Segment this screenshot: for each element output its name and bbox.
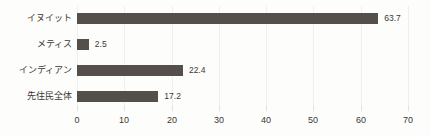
tick-30 [219, 106, 220, 111]
category-label-metis: メティス [0, 38, 72, 50]
x-tick-label-40: 40 [261, 114, 271, 126]
x-tick-label-10: 10 [119, 114, 129, 126]
tick-10 [124, 106, 125, 111]
plot-area: 63.7 2.5 22.4 17.2 [77, 6, 408, 112]
bar-inuit[interactable] [77, 13, 378, 24]
gridline-70 [408, 6, 409, 112]
category-label-indian: インディアン [0, 64, 72, 76]
x-tick-label-0: 0 [74, 114, 79, 126]
y-axis-labels: イヌイット メティス インディアン 先住民全体 [0, 6, 72, 112]
tick-50 [313, 106, 314, 111]
bar-metis[interactable] [77, 39, 89, 50]
bar-row: 2.5 [77, 32, 408, 58]
bar-value-indian: 22.4 [189, 64, 206, 76]
x-tick-label-30: 30 [214, 114, 224, 126]
category-label-indigenous-total: 先住民全体 [0, 90, 72, 102]
tick-60 [361, 106, 362, 111]
x-tick-label-70: 70 [403, 114, 413, 126]
bar-indigenous-total[interactable] [77, 91, 158, 102]
bar-value-indigenous-total: 17.2 [164, 90, 181, 102]
tick-20 [172, 106, 173, 111]
bar-row: 17.2 [77, 84, 408, 110]
bar-row: 22.4 [77, 58, 408, 84]
tick-0 [77, 106, 78, 111]
bar-value-metis: 2.5 [95, 38, 107, 50]
x-axis-labels: 0 10 20 30 40 50 60 70 [0, 114, 431, 130]
bar-row: 63.7 [77, 6, 408, 32]
x-tick-label-60: 60 [356, 114, 366, 126]
bar-chart: 63.7 2.5 22.4 17.2 イヌイット メティス インディアン 先住民… [0, 0, 431, 136]
x-tick-label-20: 20 [167, 114, 177, 126]
tick-40 [266, 106, 267, 111]
bar-indian[interactable] [77, 65, 183, 76]
bar-value-inuit: 63.7 [384, 12, 401, 24]
category-label-inuit: イヌイット [0, 12, 72, 24]
x-tick-label-50: 50 [308, 114, 318, 126]
tick-70 [408, 106, 409, 111]
